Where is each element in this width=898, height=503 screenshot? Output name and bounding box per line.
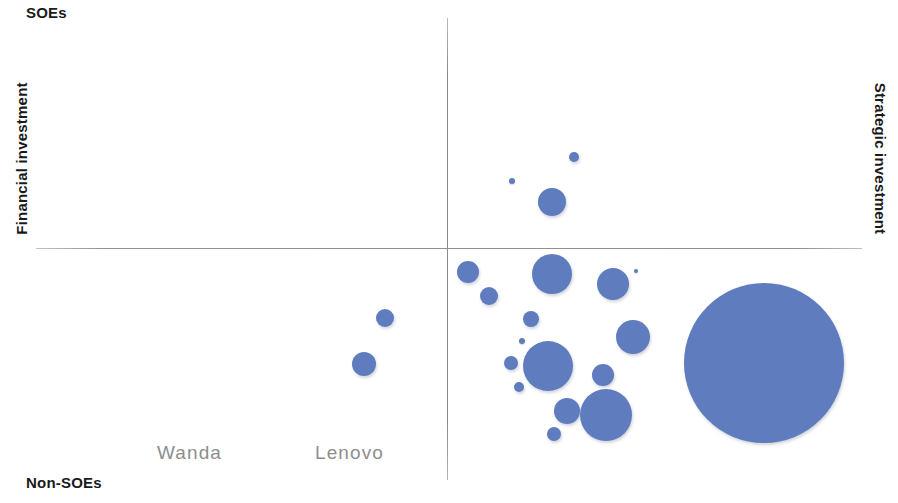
bubble-p19 (547, 427, 561, 441)
bubble-p10 (352, 352, 376, 376)
bubble-chart: SOEs Non-SOEs Financial investment Strat… (0, 0, 898, 503)
bubble-p11 (523, 311, 539, 327)
bubble-p17 (592, 364, 614, 386)
bubble-p02 (569, 152, 579, 162)
bubble-p13 (523, 341, 573, 391)
bubble-label-wanda: Wanda (157, 442, 222, 464)
bubble-label-lenovo: Lenovo (315, 442, 384, 464)
bubble-p08 (634, 269, 638, 273)
bubble-p03 (538, 188, 566, 216)
bubble-p15 (504, 356, 518, 370)
axis-label-financial-investment: Financial investment (13, 69, 30, 249)
bubble-p07 (597, 268, 629, 300)
bubble-p05 (480, 287, 498, 305)
vertical-axis-line (447, 18, 448, 480)
bubble-p16 (514, 382, 524, 392)
bubble-p06 (532, 254, 572, 294)
bubble-p12 (519, 338, 525, 344)
bubble-p01 (509, 178, 515, 184)
axis-label-soes: SOEs (26, 4, 67, 21)
bubble-wanda (580, 389, 632, 441)
axis-label-strategic-investment: Strategic investment (872, 69, 889, 249)
bubble-p04 (457, 261, 479, 283)
bubble-lenovo (684, 283, 844, 443)
bubble-p18 (554, 398, 580, 424)
horizontal-axis-line (36, 248, 862, 249)
axis-label-non-soes: Non-SOEs (26, 474, 102, 491)
bubble-p09 (376, 309, 394, 327)
bubble-p14 (616, 320, 650, 354)
